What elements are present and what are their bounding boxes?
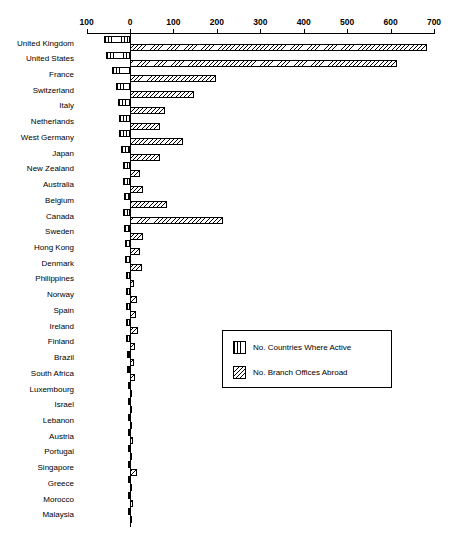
category-label: Canada: [0, 212, 78, 222]
category-label: United Kingdom: [0, 39, 78, 49]
bar-branch-offices: [130, 233, 143, 240]
category-label: Norway: [0, 290, 78, 300]
category-label: Belgium: [0, 196, 78, 206]
legend-label-branch-offices: No. Branch Offices Abroad: [253, 368, 348, 377]
bar-countries-active: [128, 445, 130, 452]
bar-countries-active: [124, 193, 130, 200]
bar-branch-offices: [130, 484, 132, 491]
category-label: Australia: [0, 180, 78, 190]
bar-branch-offices: [130, 406, 132, 413]
bar-countries-active: [123, 162, 130, 169]
bar-branch-offices: [130, 264, 142, 271]
x-tick-mark: [391, 29, 392, 34]
category-label: New Zealand: [0, 164, 78, 174]
bar-countries-active: [119, 130, 130, 137]
x-tick-label: 600: [383, 17, 397, 27]
category-label: Hong Kong: [0, 243, 78, 253]
bar-countries-active: [127, 366, 130, 373]
category-label: Lebanon: [0, 416, 78, 426]
category-label: Philippines: [0, 274, 78, 284]
bar-countries-active: [104, 36, 130, 43]
bar-branch-offices: [130, 91, 194, 98]
category-label: South Africa: [0, 369, 78, 379]
bar-countries-active: [128, 382, 130, 389]
category-label: Israel: [0, 400, 78, 410]
x-tick-mark: [173, 29, 174, 34]
x-tick-label: 500: [340, 17, 354, 27]
x-tick-label: 300: [253, 17, 267, 27]
category-label: Singapore: [0, 463, 78, 473]
category-label: France: [0, 70, 78, 80]
bar-countries-active: [128, 414, 130, 421]
bar-branch-offices: [130, 374, 135, 381]
bar-branch-offices: [130, 280, 134, 287]
category-label: Netherlands: [0, 117, 78, 127]
x-tick-label: 100: [166, 17, 180, 27]
bar-countries-active: [128, 461, 130, 468]
bar-countries-active: [123, 209, 130, 216]
bar-countries-active: [125, 240, 130, 247]
bar-branch-offices: [130, 138, 183, 145]
bar-countries-active: [128, 508, 130, 515]
x-tick-mark: [87, 29, 88, 34]
bar-countries-active: [127, 351, 130, 358]
category-label: West Germany: [0, 133, 78, 143]
category-label: Italy: [0, 101, 78, 111]
bar-branch-offices: [130, 390, 132, 397]
legend-label-countries-active: No. Countries Where Active: [253, 343, 351, 352]
x-tick-label: 200: [210, 17, 224, 27]
bar-branch-offices: [130, 422, 132, 429]
x-tick-mark: [347, 29, 348, 34]
category-label: United States: [0, 54, 78, 64]
legend-swatch-diagonal-hatch-icon: [233, 366, 246, 379]
bar-countries-active: [126, 303, 130, 310]
category-label: Switzerland: [0, 86, 78, 96]
bar-branch-offices: [130, 75, 216, 82]
bar-branch-offices: [130, 123, 160, 130]
category-label: Austria: [0, 432, 78, 442]
bar-branch-offices: [130, 186, 143, 193]
legend: No. Countries Where Active No. Branch Of…: [222, 330, 392, 388]
legend-item-branch-offices: No. Branch Offices Abroad: [233, 366, 348, 379]
category-label: Brazil: [0, 353, 78, 363]
bar-countries-active: [126, 319, 130, 326]
bar-countries-active: [126, 288, 130, 295]
category-label: Luxembourg: [0, 385, 78, 395]
x-tick-label: 400: [297, 17, 311, 27]
category-label: Japan: [0, 149, 78, 159]
bar-countries-active: [124, 225, 130, 232]
bar-countries-active: [128, 398, 130, 405]
legend-swatch-vertical-hatch-icon: [233, 341, 246, 354]
category-label: Finland: [0, 337, 78, 347]
bar-branch-offices: [130, 217, 223, 224]
bar-branch-offices: [130, 44, 427, 51]
bar-branch-offices: [130, 201, 167, 208]
category-label: Malaysia: [0, 510, 78, 520]
bar-branch-offices: [130, 500, 133, 507]
bar-branch-offices: [130, 343, 135, 350]
bar-branch-offices: [130, 296, 137, 303]
bar-branch-offices: [130, 248, 140, 255]
bar-countries-active: [126, 335, 130, 342]
bar-branch-offices: [130, 359, 134, 366]
bar-branch-offices: [130, 311, 136, 318]
bar-branch-offices: [130, 107, 165, 114]
bar-countries-active: [121, 146, 130, 153]
bar-branch-offices: [130, 437, 133, 444]
x-tick-mark: [304, 29, 305, 34]
bar-branch-offices: [130, 154, 160, 161]
bar-branch-offices: [130, 469, 137, 476]
bar-countries-active: [128, 429, 130, 436]
bar-countries-active: [123, 178, 130, 185]
x-tick-mark: [217, 29, 218, 34]
bar-countries-active: [106, 52, 130, 59]
category-label: Sweden: [0, 227, 78, 237]
bar-branch-offices: [130, 516, 132, 523]
bar-branch-offices: [130, 327, 138, 334]
category-label: Portugal: [0, 447, 78, 457]
bar-branch-offices: [130, 453, 132, 460]
bar-countries-active: [128, 492, 130, 499]
bar-countries-active: [128, 476, 130, 483]
bar-countries-active: [126, 272, 130, 279]
x-tick-mark: [260, 29, 261, 34]
